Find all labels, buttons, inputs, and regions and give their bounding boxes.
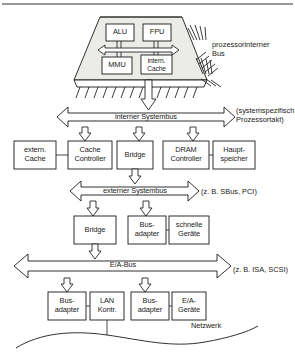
chip-pins-bottom xyxy=(76,87,197,98)
processor-internal-bus-label: prozessorinterner Bus xyxy=(212,40,294,58)
busadapter-3-label: Bus- adapter xyxy=(131,292,169,320)
external-system-bus-note: (z. B. SBus, PCI) xyxy=(201,187,295,196)
ea-geraete-label: E/A- Geräte xyxy=(172,292,206,320)
bridge-1-label: Bridge xyxy=(117,141,153,169)
dram-controller-label: DRAM Controller xyxy=(163,141,209,169)
diagram-canvas: .s { fill:none; stroke:#1a1a1a; stroke-w… xyxy=(0,0,295,359)
cache-controller-label: Cache Controller xyxy=(68,141,112,169)
busadapter-2-label: Bus- adapter xyxy=(48,292,86,320)
schnelle-geraete-label: schnelle Geräte xyxy=(169,216,209,244)
internal-system-bus-label: interner Systembus xyxy=(88,113,204,122)
io-bus-down-arrows xyxy=(61,278,151,292)
io-bus-note: (z. B. ISA, SCSI) xyxy=(233,265,295,274)
bridge2-to-io-bus-arrow xyxy=(89,244,101,259)
internal-system-bus-note: (systemspezifisch, Prozessortakt) xyxy=(236,106,295,124)
extern-cache-label: extern. Cache xyxy=(14,141,56,169)
internal-bus-down-arrows xyxy=(79,127,199,141)
netzwerk-label: Netzwerk xyxy=(191,322,251,331)
mmu-label: MMU xyxy=(102,57,132,74)
alu-label: ALU xyxy=(106,24,134,41)
busadapter-1-label: Bus- adapter xyxy=(128,216,166,244)
external-system-bus-label: externer Systembus xyxy=(82,187,188,196)
fpu-label: FPU xyxy=(143,24,171,41)
external-bus-down-arrows xyxy=(87,201,152,216)
io-bus-label: E/A-Bus xyxy=(90,261,156,270)
hauptspeicher-label: Haupt- speicher xyxy=(213,141,255,169)
chip-rim xyxy=(74,80,207,87)
lan-kontroller-label: LAN Kontr. xyxy=(90,292,124,320)
intern-cache-label: intern. Cache xyxy=(141,55,172,74)
bridge-2-label: Bridge xyxy=(74,216,116,244)
bridge1-to-external-bus-arrow xyxy=(129,169,141,184)
